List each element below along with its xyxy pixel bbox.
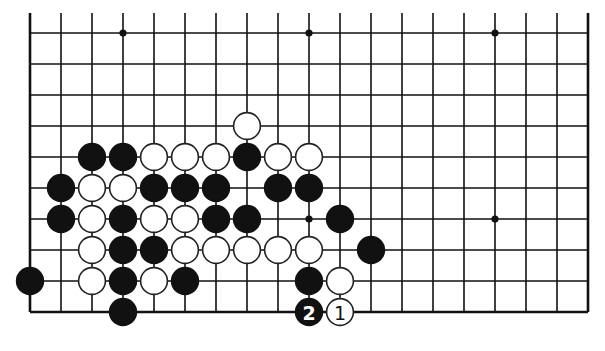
white-stone-shape — [327, 268, 354, 295]
white-stone — [79, 237, 106, 264]
star-point — [119, 29, 126, 36]
white-stone — [172, 237, 199, 264]
white-stone-shape — [172, 206, 199, 233]
black-stone-shape — [109, 205, 137, 233]
black-stone-shape — [109, 236, 137, 264]
black-stone-shape — [202, 174, 230, 202]
black-stone — [16, 267, 44, 295]
black-stone — [295, 174, 323, 202]
white-stone — [141, 268, 168, 295]
black-stone-shape — [233, 143, 261, 171]
star-point — [491, 29, 498, 36]
black-stone-shape — [264, 174, 292, 202]
black-stone — [202, 174, 230, 202]
white-stone-shape — [110, 175, 137, 202]
black-stone — [357, 236, 385, 264]
black-stone — [78, 143, 106, 171]
black-stone-shape — [47, 205, 75, 233]
white-stone-shape — [265, 237, 292, 264]
star-point — [305, 29, 312, 36]
black-stone-shape — [202, 205, 230, 233]
white-stone-shape — [172, 144, 199, 171]
white-stone — [265, 237, 292, 264]
white-stone-shape — [141, 144, 168, 171]
move-number-label: 1 — [334, 302, 346, 324]
white-stone-shape — [79, 237, 106, 264]
white-stone — [79, 175, 106, 202]
white-stone-shape — [141, 268, 168, 295]
black-stone — [326, 205, 354, 233]
black-stone — [109, 267, 137, 295]
black-stone-shape — [47, 174, 75, 202]
black-stone-shape — [109, 267, 137, 295]
white-stone-shape — [203, 144, 230, 171]
black-stone-shape — [295, 174, 323, 202]
black-stone — [47, 205, 75, 233]
white-stone — [172, 144, 199, 171]
black-stone — [109, 143, 137, 171]
white-stone-shape — [79, 268, 106, 295]
black-stone — [140, 174, 168, 202]
move-number-label: 2 — [302, 302, 315, 324]
white-stone: 1 — [327, 299, 354, 326]
white-stone-shape — [234, 237, 261, 264]
black-stone — [202, 205, 230, 233]
black-stone-shape — [171, 267, 199, 295]
go-board-diagram: 21 — [0, 0, 605, 351]
white-stone — [234, 237, 261, 264]
black-stone — [233, 205, 261, 233]
white-stone — [141, 144, 168, 171]
white-stone — [296, 144, 323, 171]
black-stone — [233, 143, 261, 171]
black-stone — [109, 298, 137, 326]
black-stone-shape — [109, 143, 137, 171]
black-stone-shape — [326, 205, 354, 233]
white-stone — [141, 206, 168, 233]
white-stone-shape — [79, 206, 106, 233]
black-stone — [140, 236, 168, 264]
white-stone-shape — [296, 144, 323, 171]
white-stone-shape — [141, 206, 168, 233]
black-stone — [295, 267, 323, 295]
white-stone — [203, 237, 230, 264]
white-stone-shape — [79, 175, 106, 202]
black-stone-shape — [357, 236, 385, 264]
white-stone-shape — [265, 144, 292, 171]
black-stone-shape — [295, 267, 323, 295]
white-stone — [265, 144, 292, 171]
black-stone-shape — [233, 205, 261, 233]
black-stone: 2 — [295, 298, 323, 326]
black-stone-shape — [140, 236, 168, 264]
star-point — [305, 215, 312, 222]
white-stone-shape — [203, 237, 230, 264]
white-stone-shape — [234, 113, 261, 140]
black-stone — [264, 174, 292, 202]
white-stone-shape — [296, 237, 323, 264]
white-stone — [110, 175, 137, 202]
black-stone-shape — [16, 267, 44, 295]
black-stone-shape — [109, 298, 137, 326]
white-stone — [79, 268, 106, 295]
black-stone — [109, 236, 137, 264]
black-stone-shape — [140, 174, 168, 202]
black-stone — [47, 174, 75, 202]
white-stone — [172, 206, 199, 233]
white-stone — [79, 206, 106, 233]
star-point — [491, 215, 498, 222]
black-stone — [171, 174, 199, 202]
white-stone — [234, 113, 261, 140]
white-stone — [327, 268, 354, 295]
black-stone-shape — [78, 143, 106, 171]
white-stone-shape — [172, 237, 199, 264]
white-stone — [203, 144, 230, 171]
black-stone — [109, 205, 137, 233]
white-stone — [296, 237, 323, 264]
black-stone-shape — [171, 174, 199, 202]
black-stone — [171, 267, 199, 295]
